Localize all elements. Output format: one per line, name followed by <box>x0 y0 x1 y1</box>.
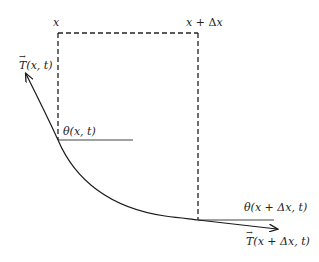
right-tension-arrow <box>198 220 277 229</box>
label-theta-right: θ(x + Δx, t) <box>244 201 307 214</box>
label-x-left: x <box>53 16 60 29</box>
string-element-diagram: x x + Δx T(x, t) → θ(x, t) θ(x + Δx, t) … <box>0 0 319 262</box>
left-tension-arrow <box>26 74 58 140</box>
vector-arrow-left: → <box>19 52 26 61</box>
label-x-plus-delta-x: x + Δx <box>186 16 223 29</box>
label-tension-right: T(x + Δx, t) <box>246 235 310 248</box>
string-curve <box>58 140 198 220</box>
label-theta-left: θ(x, t) <box>63 125 96 138</box>
vector-arrow-right: → <box>246 228 253 237</box>
